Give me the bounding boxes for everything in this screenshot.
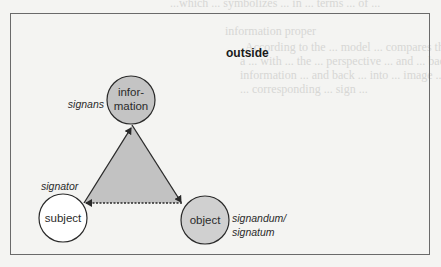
triangle-fill (84, 125, 182, 203)
semiotic-triangle-diagram: outside infor- mation signans subject si… (0, 0, 441, 267)
node-information: infor- mation (107, 76, 155, 124)
information-label-line2: mation (114, 100, 149, 112)
node-subject: subject (39, 194, 87, 242)
signandum-label: signandum/ (232, 212, 287, 224)
subject-label: subject (45, 212, 82, 224)
outside-label: outside (226, 46, 269, 60)
information-label-line1: infor- (118, 86, 144, 98)
object-label: object (190, 214, 221, 226)
node-object: object (181, 196, 229, 244)
signatum-label: signatum (232, 226, 275, 238)
signator-label: signator (41, 180, 79, 192)
signans-label: signans (68, 98, 105, 110)
